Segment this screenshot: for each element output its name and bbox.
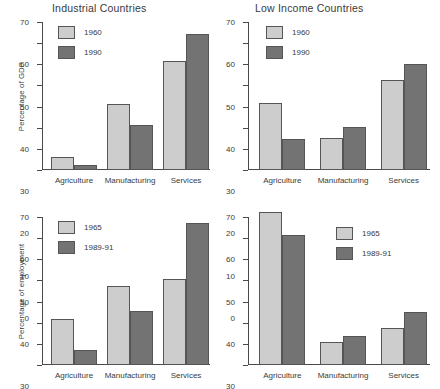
y-axis-tick: 0 xyxy=(243,170,248,171)
y-axis-tick-label: 60 xyxy=(226,255,235,264)
bar xyxy=(381,328,404,365)
bar xyxy=(51,157,74,170)
y-axis-tick-label: 30 xyxy=(20,382,29,389)
y-axis-tick-label: 60 xyxy=(20,60,29,69)
legend-label: 1990 xyxy=(292,48,310,57)
legend: 19601990 xyxy=(266,26,310,66)
y-axis-tick: 20 xyxy=(37,323,42,324)
bar xyxy=(163,61,186,170)
y-axis-line xyxy=(248,22,249,170)
y-axis-tick: 0 xyxy=(243,365,248,366)
x-axis-category-label: Services xyxy=(388,176,419,185)
y-axis-tick: 60 xyxy=(37,238,42,239)
y-axis-tick-label: 50 xyxy=(20,102,29,111)
bar xyxy=(74,165,97,170)
legend-label: 1989-91 xyxy=(362,249,391,258)
bar xyxy=(282,139,305,170)
x-axis-category-label: Manufacturing xyxy=(105,176,156,185)
legend-label: 1965 xyxy=(362,229,380,238)
legend-item: 1960 xyxy=(266,26,310,39)
figure: Industrial Countries Percentage of GDP 0… xyxy=(0,0,440,389)
y-axis-tick-label: 70 xyxy=(20,18,29,27)
y-axis-line xyxy=(248,217,249,365)
y-axis-tick: 40 xyxy=(37,280,42,281)
bar xyxy=(163,279,186,365)
bar xyxy=(107,104,130,170)
bar xyxy=(259,103,282,170)
y-axis-tick: 10 xyxy=(37,149,42,150)
y-axis-tick-label: 40 xyxy=(20,144,29,153)
plot-area: 010203040506070AgricultureManufacturingS… xyxy=(248,217,430,365)
y-axis-tick-label: 60 xyxy=(20,255,29,264)
x-axis-category-label: Manufacturing xyxy=(318,371,369,380)
x-axis-category-label: Agriculture xyxy=(263,176,301,185)
bar xyxy=(130,311,153,365)
bar xyxy=(107,286,130,365)
y-axis-tick: 0 xyxy=(37,170,42,171)
y-axis-tick: 10 xyxy=(37,344,42,345)
y-axis-tick: 30 xyxy=(243,302,248,303)
y-axis-tick: 40 xyxy=(243,280,248,281)
x-axis-category-label: Agriculture xyxy=(55,176,93,185)
bar xyxy=(320,138,343,170)
bar-group: Manufacturing xyxy=(107,217,153,365)
y-axis-tick: 10 xyxy=(243,344,248,345)
y-axis-tick-label: 70 xyxy=(226,213,235,222)
x-axis-category-label: Services xyxy=(171,176,202,185)
panel-lowincome-employment: 010203040506070AgricultureManufacturingS… xyxy=(220,195,440,389)
legend-item: 1960 xyxy=(58,26,102,39)
y-axis-tick-label: 50 xyxy=(226,102,235,111)
bar xyxy=(74,350,97,365)
y-axis-tick: 50 xyxy=(37,259,42,260)
y-axis-tick-label: 40 xyxy=(226,339,235,348)
y-axis-tick: 60 xyxy=(243,238,248,239)
y-axis-tick-label: 50 xyxy=(226,297,235,306)
bar xyxy=(404,64,427,170)
y-axis-tick: 30 xyxy=(37,302,42,303)
bar xyxy=(381,80,404,170)
y-axis-line xyxy=(42,217,43,365)
legend-label: 1960 xyxy=(292,28,310,37)
y-axis-tick-label: 40 xyxy=(20,339,29,348)
legend-item: 1990 xyxy=(58,46,102,59)
legend: 19651989-91 xyxy=(58,221,113,261)
y-axis-tick-label: 40 xyxy=(226,144,235,153)
y-axis-tick: 20 xyxy=(37,128,42,129)
y-axis-tick-label: 70 xyxy=(20,213,29,222)
y-axis-tick: 50 xyxy=(243,259,248,260)
legend-swatch xyxy=(58,26,75,39)
bar xyxy=(186,223,209,365)
panel-industrial-employment: Percentage of employment 010203040506070… xyxy=(0,195,220,389)
x-axis-category-label: Agriculture xyxy=(263,371,301,380)
y-axis-tick: 40 xyxy=(243,85,248,86)
y-axis-tick: 50 xyxy=(37,64,42,65)
legend: 19601990 xyxy=(58,26,102,66)
legend-item: 1989-91 xyxy=(58,241,113,254)
y-axis-tick: 10 xyxy=(243,149,248,150)
y-axis-tick: 20 xyxy=(243,128,248,129)
x-axis-category-label: Manufacturing xyxy=(105,371,156,380)
legend-label: 1960 xyxy=(84,28,102,37)
y-axis-tick: 30 xyxy=(243,107,248,108)
bar-group: Manufacturing xyxy=(320,22,366,170)
y-axis-tick: 0 xyxy=(37,365,42,366)
bar-group: Services xyxy=(163,22,209,170)
bar xyxy=(343,127,366,170)
legend-item: 1989-91 xyxy=(336,247,391,260)
y-axis-tick: 50 xyxy=(243,64,248,65)
bar xyxy=(320,342,343,365)
x-axis-category-label: Services xyxy=(388,371,419,380)
legend-swatch xyxy=(336,227,353,240)
bar xyxy=(282,235,305,365)
panel-title: Industrial Countries xyxy=(52,2,146,14)
bar-group: Services xyxy=(163,217,209,365)
bar xyxy=(404,312,427,365)
panel-lowincome-gdp: Low Income Countries 010203040506070Agri… xyxy=(220,0,440,194)
x-axis-category-label: Agriculture xyxy=(55,371,93,380)
bar-group: Services xyxy=(381,22,427,170)
y-axis-tick-label: 30 xyxy=(226,382,235,389)
plot-area: 010203040506070AgricultureManufacturingS… xyxy=(248,22,430,170)
plot-area: 010203040506070AgricultureManufacturingS… xyxy=(42,217,210,365)
panel-title: Low Income Countries xyxy=(255,2,363,14)
legend-swatch xyxy=(266,26,283,39)
